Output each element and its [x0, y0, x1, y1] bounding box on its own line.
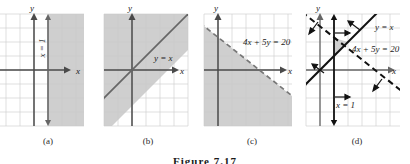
axis-label-y: y	[127, 3, 132, 13]
line-label-x-equals-1: x = 1	[335, 100, 355, 110]
panel-caption-b: (b)	[96, 136, 200, 146]
axis-label-y: y	[213, 3, 218, 13]
line-label-x-equals-1: x = 1	[37, 38, 47, 58]
axis-label-x: x	[179, 66, 184, 76]
axis-label-x: x	[391, 66, 396, 76]
axis-label-y: y	[29, 3, 34, 13]
panel-caption-c: (c)	[200, 136, 304, 146]
line-label-y-equals-x: y = x	[153, 53, 173, 63]
axis-label-x: x	[287, 66, 292, 76]
panel-a: x y x = 1 (a)	[0, 0, 96, 136]
figure-container: x y x = 1 (a)	[0, 0, 410, 164]
panel-caption-a: (a)	[0, 136, 96, 146]
panel-d-graph: x y y = x 4x + 5y = 20 x = 1	[304, 0, 410, 136]
panel-b: x y y = x (b)	[96, 0, 200, 136]
panel-a-graph: x y x = 1	[0, 0, 96, 136]
panel-d: x y y = x 4x + 5y = 20 x = 1 (d)	[304, 0, 410, 136]
line-label-4x-5y-20: 4x + 5y = 20	[243, 37, 291, 47]
panel-c: x y 4x + 5y = 20 (c)	[200, 0, 304, 136]
figure-number-label: Figure 7.17	[0, 155, 410, 164]
panel-b-graph: x y y = x	[96, 0, 200, 136]
line-label-4x-5y-20: 4x + 5y = 20	[352, 44, 400, 54]
panel-c-graph: x y 4x + 5y = 20	[200, 0, 304, 136]
axis-label-x: x	[75, 66, 80, 76]
line-label-y-equals-x: y = x	[374, 22, 394, 32]
axis-label-y: y	[315, 3, 320, 13]
panel-caption-d: (d)	[304, 136, 410, 146]
